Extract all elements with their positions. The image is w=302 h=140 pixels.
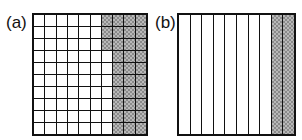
shaded-cell: [136, 27, 146, 38]
empty-cell: [202, 15, 213, 134]
empty-cell: [57, 27, 67, 38]
empty-cell: [45, 27, 55, 38]
empty-cell: [57, 99, 67, 110]
empty-cell: [79, 63, 89, 74]
empty-cell: [34, 51, 44, 62]
empty-cell: [79, 39, 89, 50]
empty-cell: [57, 51, 67, 62]
shaded-cell: [124, 87, 134, 98]
shaded-cell: [102, 39, 112, 50]
empty-cell: [79, 111, 89, 122]
empty-cell: [79, 27, 89, 38]
shaded-cell: [136, 123, 146, 134]
empty-cell: [91, 87, 101, 98]
shaded-cell: [124, 75, 134, 86]
empty-cell: [34, 15, 44, 26]
empty-cell: [45, 111, 55, 122]
empty-cell: [34, 123, 44, 134]
empty-cell: [79, 51, 89, 62]
empty-cell: [68, 63, 78, 74]
shaded-cell: [136, 51, 146, 62]
empty-cell: [91, 39, 101, 50]
shaded-cell: [113, 87, 123, 98]
empty-cell: [79, 123, 89, 134]
empty-cell: [68, 75, 78, 86]
empty-cell: [57, 87, 67, 98]
empty-cell: [102, 51, 112, 62]
empty-cell: [57, 123, 67, 134]
shaded-cell: [136, 63, 146, 74]
empty-cell: [45, 39, 55, 50]
empty-cell: [91, 99, 101, 110]
empty-cell: [91, 63, 101, 74]
shaded-cell: [113, 27, 123, 38]
empty-cell: [68, 111, 78, 122]
shaded-cell: [283, 15, 294, 134]
empty-cell: [57, 63, 67, 74]
empty-cell: [45, 15, 55, 26]
shaded-cell: [124, 15, 134, 26]
shaded-cell: [113, 51, 123, 62]
empty-cell: [91, 111, 101, 122]
empty-cell: [102, 87, 112, 98]
empty-cell: [102, 123, 112, 134]
empty-cell: [225, 15, 236, 134]
empty-cell: [91, 123, 101, 134]
shaded-cell: [124, 63, 134, 74]
shaded-cell: [113, 123, 123, 134]
shaded-cell: [113, 99, 123, 110]
shaded-cell: [136, 15, 146, 26]
empty-cell: [237, 15, 248, 134]
empty-cell: [91, 15, 101, 26]
empty-cell: [34, 87, 44, 98]
empty-cell: [68, 99, 78, 110]
shaded-cell: [124, 39, 134, 50]
empty-cell: [45, 51, 55, 62]
empty-cell: [34, 75, 44, 86]
shaded-cell: [113, 75, 123, 86]
empty-cell: [191, 15, 202, 134]
shaded-cell: [272, 15, 283, 134]
empty-cell: [45, 99, 55, 110]
empty-cell: [57, 111, 67, 122]
shaded-cell: [124, 27, 134, 38]
empty-cell: [91, 27, 101, 38]
empty-cell: [68, 15, 78, 26]
empty-cell: [34, 111, 44, 122]
panel-a-hundred-grid: [32, 13, 148, 136]
empty-cell: [45, 87, 55, 98]
empty-cell: [68, 39, 78, 50]
empty-cell: [214, 15, 225, 134]
shaded-cell: [136, 99, 146, 110]
empty-cell: [102, 63, 112, 74]
empty-cell: [68, 123, 78, 134]
empty-cell: [102, 99, 112, 110]
empty-cell: [79, 99, 89, 110]
empty-cell: [45, 63, 55, 74]
empty-cell: [260, 15, 271, 134]
empty-cell: [57, 75, 67, 86]
shaded-cell: [136, 75, 146, 86]
empty-cell: [34, 27, 44, 38]
empty-cell: [45, 75, 55, 86]
empty-cell: [34, 99, 44, 110]
shaded-cell: [102, 27, 112, 38]
empty-cell: [102, 75, 112, 86]
panel-a-label: (a): [6, 14, 27, 31]
empty-cell: [179, 15, 190, 134]
empty-cell: [68, 87, 78, 98]
shaded-cell: [113, 111, 123, 122]
empty-cell: [34, 39, 44, 50]
shaded-cell: [102, 15, 112, 26]
shaded-cell: [136, 39, 146, 50]
shaded-cell: [124, 111, 134, 122]
shaded-cell: [136, 87, 146, 98]
shaded-cell: [124, 99, 134, 110]
empty-cell: [68, 27, 78, 38]
shaded-cell: [124, 51, 134, 62]
empty-cell: [91, 51, 101, 62]
empty-cell: [249, 15, 260, 134]
empty-cell: [79, 87, 89, 98]
empty-cell: [57, 39, 67, 50]
shaded-cell: [124, 123, 134, 134]
